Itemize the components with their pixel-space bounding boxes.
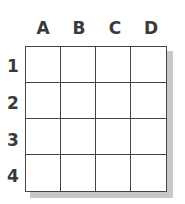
column-header-c: C (97, 18, 133, 38)
column-header-a: A (25, 18, 61, 38)
cell-c4 (96, 155, 131, 191)
row-header-2: 2 (4, 93, 22, 113)
cell-a2 (26, 83, 61, 119)
cell-b2 (61, 83, 96, 119)
cell-a4 (26, 155, 61, 191)
grid-4x4 (25, 46, 167, 192)
cell-d1 (131, 47, 166, 83)
cell-b4 (61, 155, 96, 191)
column-header-d: D (133, 18, 169, 38)
column-header-b: B (61, 18, 97, 38)
cell-d3 (131, 119, 166, 155)
cell-b3 (61, 119, 96, 155)
cell-d4 (131, 155, 166, 191)
cell-a1 (26, 47, 61, 83)
cell-c3 (96, 119, 131, 155)
row-header-3: 3 (4, 130, 22, 150)
row-header-4: 4 (4, 166, 22, 186)
cell-c1 (96, 47, 131, 83)
cell-b1 (61, 47, 96, 83)
cell-c2 (96, 83, 131, 119)
cell-d2 (131, 83, 166, 119)
cell-a3 (26, 119, 61, 155)
row-header-1: 1 (4, 56, 22, 76)
